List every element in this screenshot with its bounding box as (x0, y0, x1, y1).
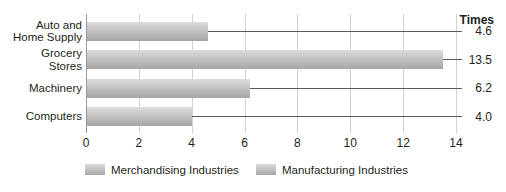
manufacturing-legend-label: Manufacturing Industries (282, 164, 408, 176)
leader-line-machinery (250, 88, 462, 89)
x-tick-label-4: 4 (177, 136, 207, 150)
x-tick-label-14: 14 (441, 136, 471, 150)
x-tick-label-10: 10 (335, 136, 365, 150)
value-label-computers: 4.0 (460, 110, 492, 124)
manufacturing-legend-swatch (256, 164, 276, 175)
bar-auto-and-home-supply (87, 22, 208, 41)
value-axis-title: Times (458, 13, 494, 27)
bar-computers (87, 107, 192, 126)
x-tick-label-8: 8 (282, 136, 312, 150)
category-label-machinery: Machinery (0, 74, 82, 102)
x-tick-label-12: 12 (388, 136, 418, 150)
value-label-machinery: 6.2 (460, 81, 492, 95)
category-label-computers: Computers (0, 103, 82, 131)
leader-line-computers (192, 116, 462, 117)
x-tick-label-6: 6 (230, 136, 260, 150)
bar-grocery-stores (87, 50, 443, 69)
bar-machinery (87, 79, 250, 98)
legend-item-merchandising: Merchandising Industries (85, 163, 239, 176)
category-label-auto-and-home-supply: Auto and Home Supply (0, 17, 82, 45)
times-interest-earned-bar-chart: 02468101214Auto and Home Supply4.6Grocer… (0, 0, 506, 192)
merchandising-legend-label: Merchandising Industries (111, 164, 239, 176)
merchandising-legend-swatch (85, 164, 105, 175)
legend-item-manufacturing: Manufacturing Industries (256, 163, 408, 176)
x-tick-label-2: 2 (124, 136, 154, 150)
category-label-grocery-stores: Grocery Stores (0, 46, 82, 74)
x-tick-label-0: 0 (71, 136, 101, 150)
leader-line-auto-and-home-supply (208, 31, 462, 32)
value-label-grocery-stores: 13.5 (460, 53, 492, 67)
